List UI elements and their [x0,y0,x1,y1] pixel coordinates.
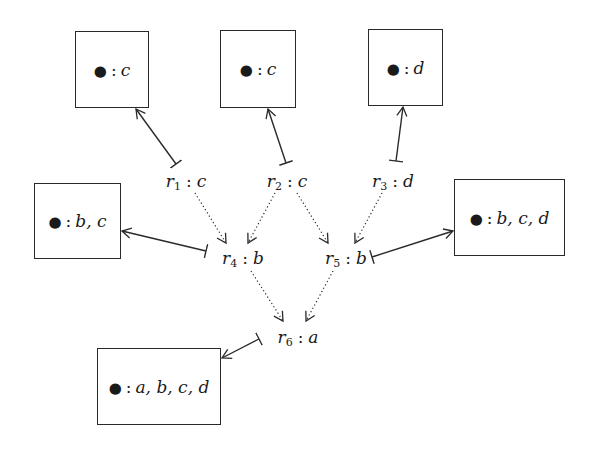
fact-atoms: b, c, d [496,208,549,228]
rule-r6: r6:a [277,327,318,349]
fact-label: ●:a, b, c, d [109,377,210,397]
fact-box-c-2: ●:c [220,30,296,108]
fact-atoms: d [413,58,424,78]
fact-box-a-b-c-d: ●:a, b, c, d [97,348,221,425]
fact-box-b-c-d: ●:b, c, d [454,179,565,256]
solid-edge-r6-to-box_abcd [222,339,259,358]
bullet-icon: ● [48,213,61,231]
rule-r1: r1:c [166,171,206,193]
dotted-edge-r2-to-r5 [297,193,328,243]
bullet-icon: ● [470,210,483,228]
fact-box-c-1: ●:c [75,31,149,108]
fact-label: ●:b, c [48,211,106,231]
fact-label: ●:c [240,59,276,79]
rule-head: a [308,327,318,347]
fact-atoms: c [267,59,277,79]
solid-edges [122,107,453,358]
fact-atoms: a, b, c, d [135,377,209,397]
rule-head: d [403,171,414,191]
rule-r3: r3:d [372,171,414,193]
fact-atoms: b, c [75,211,106,231]
fact-atoms: c [121,60,131,80]
rule-r4: r4:b [222,248,264,270]
dotted-edge-r3-to-r5 [355,193,382,243]
dotted-edge-r2-to-r4 [248,193,275,243]
dotted-edge-r5-to-r6 [306,271,333,321]
bullet-icon: ● [94,62,107,80]
rule-r2: r2:c [267,171,307,193]
solid-edge-r5-to-box_bcd [372,231,453,257]
solid-edge-r3-to-box_d [396,107,403,161]
bullet-icon: ● [109,379,122,397]
solid-edge-r2-to-box_c2 [268,109,286,163]
dotted-edge-r4-to-r6 [251,271,283,321]
fact-box-b-c: ●:b, c [34,183,121,259]
rule-head: b [356,248,367,268]
rule-head: b [253,248,264,268]
bullet-icon: ● [240,61,253,79]
fact-label: ●:d [387,58,425,78]
fact-label: ●:c [94,60,130,80]
solid-edge-r1-to-box_c1 [136,109,176,164]
bullet-icon: ● [387,60,400,78]
dotted-edge-r1-to-r4 [195,193,226,243]
fact-box-d: ●:d [368,29,443,106]
rule-head: c [197,171,207,191]
solid-edge-r4-to-box_bc [122,231,206,251]
rule-r5: r5:b [325,248,367,270]
fact-label: ●:b, c, d [470,208,550,228]
rule-head: c [298,171,308,191]
